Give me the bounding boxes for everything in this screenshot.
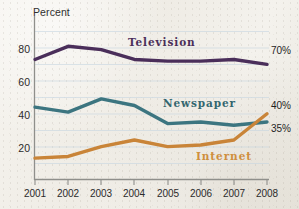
series-label-television: Television bbox=[128, 36, 196, 48]
x-tick-marks bbox=[35, 180, 267, 185]
end-label-television: 70% bbox=[271, 45, 291, 56]
x-tick-label-2008: 2008 bbox=[247, 188, 287, 199]
series-label-newspaper: Newspaper bbox=[163, 97, 236, 109]
end-label-internet: 35% bbox=[271, 123, 291, 134]
series-line-television bbox=[35, 46, 267, 64]
series-label-internet: Internet bbox=[196, 150, 252, 162]
plot-area bbox=[0, 0, 299, 209]
chart-container: Percent 80 60 40 20 bbox=[0, 0, 299, 209]
end-label-newspaper: 40% bbox=[271, 100, 291, 111]
